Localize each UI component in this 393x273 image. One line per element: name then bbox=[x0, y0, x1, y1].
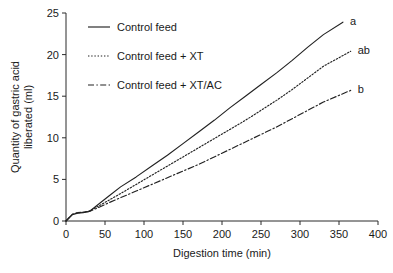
x-tick-label: 100 bbox=[135, 228, 153, 240]
y-tick-label: 0 bbox=[53, 215, 59, 227]
endpoint-label-ab: ab bbox=[358, 44, 370, 56]
y-tick-label: 15 bbox=[47, 90, 59, 102]
legend-label-3: Control feed + XT/AC bbox=[117, 79, 222, 91]
series-group bbox=[66, 22, 351, 221]
x-axis-title: Digestion time (min) bbox=[173, 247, 271, 259]
y-axis-ticks bbox=[62, 13, 66, 221]
y-axis-tick-labels: 0510152025 bbox=[47, 7, 59, 227]
endpoint-label-b: b bbox=[358, 83, 364, 95]
y-axis-title-line-2: liberated (ml) bbox=[22, 85, 34, 149]
chart-canvas: 0510152025 050100150200250300350400 Dige… bbox=[0, 0, 393, 273]
legend-label-2: Control feed + XT bbox=[117, 50, 204, 62]
y-tick-label: 10 bbox=[47, 132, 59, 144]
x-tick-label: 200 bbox=[213, 228, 231, 240]
x-tick-label: 0 bbox=[63, 228, 69, 240]
series-line-3 bbox=[66, 90, 351, 221]
y-axis-title: Quantity of gastric acid liberated (ml) bbox=[9, 61, 34, 173]
chart-figure: 0510152025 050100150200250300350400 Dige… bbox=[0, 0, 393, 273]
endpoint-annotations: aabb bbox=[350, 15, 370, 95]
series-line-1 bbox=[66, 22, 343, 221]
x-tick-label: 150 bbox=[174, 228, 192, 240]
y-tick-label: 25 bbox=[47, 7, 59, 19]
x-tick-label: 400 bbox=[369, 228, 387, 240]
x-tick-label: 250 bbox=[252, 228, 270, 240]
y-tick-label: 20 bbox=[47, 49, 59, 61]
chart-legend: Control feedControl feed + XTControl fee… bbox=[88, 21, 222, 91]
x-tick-label: 300 bbox=[291, 228, 309, 240]
endpoint-label-a: a bbox=[350, 15, 357, 27]
legend-label-1: Control feed bbox=[117, 21, 177, 33]
x-axis-tick-labels: 050100150200250300350400 bbox=[63, 228, 387, 240]
x-tick-label: 50 bbox=[99, 228, 111, 240]
y-tick-label: 5 bbox=[53, 173, 59, 185]
x-axis-ticks bbox=[66, 221, 378, 225]
x-tick-label: 350 bbox=[330, 228, 348, 240]
y-axis-title-line-1: Quantity of gastric acid bbox=[9, 61, 21, 173]
